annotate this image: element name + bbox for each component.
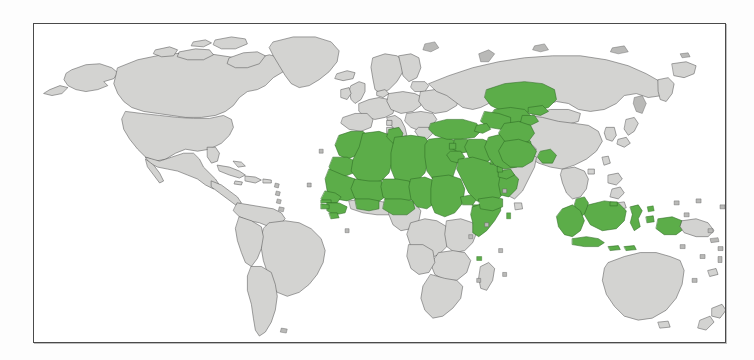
island-puerto-rico xyxy=(263,179,271,183)
country-comoros xyxy=(477,257,482,261)
island-vanuatu xyxy=(718,257,722,263)
country-gambia xyxy=(321,200,331,203)
island-pacific-k xyxy=(692,278,697,282)
island-lesser-antilles-c xyxy=(276,199,281,204)
island-trinidad xyxy=(278,207,284,212)
island-falklands xyxy=(280,328,287,333)
region-highlighted-north-africa xyxy=(321,127,465,218)
island-pacific-a xyxy=(674,201,679,205)
island-jamaica xyxy=(234,181,242,185)
island-atlantic-a xyxy=(319,149,323,153)
island-maluku xyxy=(646,216,654,223)
island-pacific-d xyxy=(684,213,689,217)
country-sierra-leone xyxy=(329,213,339,219)
island-pacific-g xyxy=(718,247,723,251)
country-brunei xyxy=(610,202,617,206)
island-pacific-c xyxy=(720,205,725,209)
region-baltic-states xyxy=(411,82,429,92)
island-pacific-b xyxy=(696,199,701,203)
island-indian-ocean-b xyxy=(485,223,489,227)
world-map-svg xyxy=(34,24,725,342)
page-root xyxy=(0,0,754,360)
island-indian-ocean-a xyxy=(503,189,507,193)
country-lebanon xyxy=(450,143,456,149)
island-hainan xyxy=(588,169,594,174)
island-halmahera xyxy=(647,206,654,212)
island-lesser-sunda-a xyxy=(608,246,620,251)
island-mauritius xyxy=(503,272,507,276)
island-pacific-e xyxy=(708,229,713,233)
country-maldives xyxy=(507,213,511,219)
island-pacific-h xyxy=(700,255,705,259)
island-lesser-antilles-b xyxy=(275,191,280,196)
island-tasmania xyxy=(658,321,670,328)
island-atlantic-b xyxy=(307,183,311,187)
island-atlantic-c xyxy=(345,229,349,233)
island-indian-ocean-c xyxy=(469,235,473,239)
island-indian-ocean-d xyxy=(499,249,503,253)
island-lesser-sunda-b xyxy=(624,246,636,251)
island-wrangel xyxy=(680,53,690,58)
island-corsica xyxy=(387,120,392,125)
country-sri-lanka xyxy=(515,203,523,210)
country-burkina-faso xyxy=(355,199,379,211)
world-map-frame xyxy=(33,23,726,343)
island-lesser-antilles-a xyxy=(274,183,279,188)
island-solomon xyxy=(710,238,719,243)
country-guinea-bissau xyxy=(321,204,329,209)
island-pacific-j xyxy=(680,245,685,249)
island-indian-ocean-e xyxy=(477,278,481,282)
